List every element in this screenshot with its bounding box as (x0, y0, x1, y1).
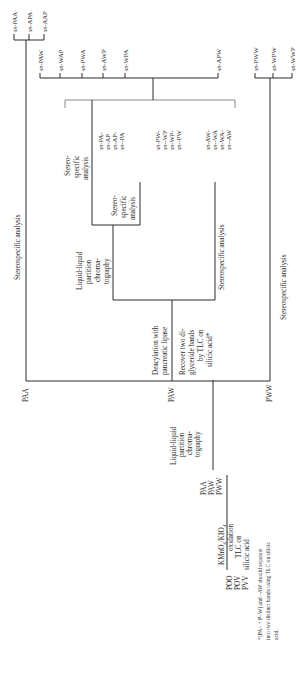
svg-text:silicic acid*: silicic acid* (206, 332, 214, 367)
group-c: sn-AW- sn--WA sn-WA- sn--AW (204, 129, 232, 150)
svg-text:Liquid-liquid: Liquid-liquid (76, 251, 84, 290)
svg-text:PAW: PAW (208, 480, 216, 495)
svg-text:sn-AP-: sn-AP- (111, 132, 118, 150)
svg-text:by TLC on: by TLC on (197, 329, 205, 361)
svg-text:sn-PAA: sn-PAA (11, 12, 18, 32)
svg-text:sn-PWW: sn-PWW (252, 47, 259, 71)
svg-text:sn-PW-: sn-PW- (154, 131, 161, 150)
svg-text:sn-WA-: sn-WA- (218, 130, 225, 150)
svg-text:specific: specific (120, 196, 128, 218)
svg-text:tography: tography (194, 431, 202, 457)
svg-text:sn-APW: sn-APW (215, 48, 222, 71)
svg-text:sn-AP: sn-AP (104, 134, 111, 150)
svg-text:sn--WA: sn--WA (211, 130, 218, 150)
svg-text:sn-APA: sn-APA (26, 12, 33, 32)
svg-text:Stereospecific analysis: Stereospecific analysis (218, 224, 226, 290)
svg-text:sn-WPA: sn-WPA (122, 49, 129, 71)
partition-label-1: Liquid-liquid partition chroma- tography (170, 426, 202, 465)
svg-text:PWW: PWW (216, 477, 224, 495)
svg-text:PAA: PAA (200, 480, 208, 495)
svg-text:sn-AW-: sn-AW- (204, 130, 211, 150)
svg-text:pancreatic lipase: pancreatic lipase (161, 327, 169, 375)
svg-text:PAW: PAW (168, 387, 176, 402)
svg-text:TLC on: TLC on (235, 535, 243, 558)
svg-text:Stereospecific analysis: Stereospecific analysis (280, 254, 288, 320)
stereo-label-a: Stereo- specific analysis (64, 155, 90, 180)
svg-text:tography: tography (103, 258, 111, 284)
group-a: sn-PA- sn-AP sn-AP- sn--PA (97, 132, 125, 150)
svg-text:analysis: analysis (129, 197, 137, 220)
svg-text:PVV: PVV (242, 575, 250, 590)
svg-text:sn--WP: sn--WP (161, 130, 168, 150)
svg-text:chroma-: chroma- (186, 430, 194, 455)
svg-text:into two distinct bands using: into two distinct bands using TLC on sil… (265, 542, 271, 640)
svg-text:*[PA– + P–W] and –AW should se: *[PA– + P–W] and –AW should separate (257, 548, 263, 640)
paw-label: PAW (168, 387, 176, 402)
svg-text:acid.: acid. (273, 629, 279, 640)
svg-text:POV: POV (234, 575, 242, 590)
svg-text:analysis: analysis (82, 157, 90, 180)
svg-text:partition: partition (85, 259, 93, 284)
svg-text:partition: partition (178, 432, 186, 457)
pww-stereo-label: Stereospecific analysis (280, 254, 288, 320)
svg-text:sn-WWP: sn-WWP (289, 47, 296, 71)
footnote: *[PA– + P–W] and –AW should separate int… (257, 542, 279, 640)
svg-text:KMnO4/KIO4: KMnO4/KIO4 (218, 524, 227, 565)
svg-text:Stereo-: Stereo- (111, 195, 119, 216)
group-b: sn-PW- sn--WP sn-WP- sn--PW (154, 130, 182, 150)
svg-text:sn-PAW: sn-PAW (37, 49, 44, 71)
intermediate-compounds: PAA PAW PWW (200, 477, 224, 495)
svg-text:specific: specific (73, 156, 81, 178)
svg-text:Stereospecific analysis: Stereospecific analysis (14, 214, 22, 280)
paa-stereo-label: Stereospecific analysis (14, 214, 22, 280)
svg-text:sn-WAP: sn-WAP (57, 49, 64, 71)
svg-text:POO: POO (226, 576, 234, 590)
paa-label: PAA (22, 387, 30, 402)
svg-text:sn-PWA: sn-PWA (79, 49, 86, 71)
svg-text:sn--PA: sn--PA (118, 132, 125, 150)
svg-text:Stereo-: Stereo- (64, 155, 72, 176)
pww-label: PWW (266, 384, 274, 402)
svg-text:sn--AW: sn--AW (225, 129, 232, 150)
partition-label-2: Liquid-liquid partition chroma- tography (76, 251, 111, 290)
svg-text:PAA: PAA (22, 387, 30, 402)
svg-text:chroma-: chroma- (94, 257, 102, 282)
svg-text:sn-PA-: sn-PA- (97, 132, 104, 150)
stereo-label-b: Stereo- specific analysis (111, 195, 137, 220)
svg-text:Recover two di-: Recover two di- (179, 328, 187, 375)
svg-text:oxidation: oxidation (227, 523, 235, 551)
tlc-label: TLC on silicic acid (235, 535, 251, 570)
svg-text:sn-AWP: sn-AWP (100, 49, 107, 71)
svg-text:sn-WPW: sn-WPW (270, 47, 277, 71)
svg-text:sn-WP-: sn-WP- (168, 130, 175, 150)
svg-text:glyceride bands: glyceride bands (188, 329, 196, 375)
stereo-label-c: Stereospecific analysis (218, 224, 226, 290)
svg-text:sn--PW: sn--PW (175, 130, 182, 150)
svg-text:silicic acid: silicic acid (243, 539, 251, 570)
deacylation-label: Deacylation with pancreatic lipase (152, 325, 169, 375)
recover-label: Recover two di- glyceride bands by TLC o… (179, 328, 214, 375)
svg-text:PWW: PWW (266, 384, 274, 402)
lipid-analysis-flow-diagram: POO POV PVV KMnO4/KIO4 oxidation TLC on … (0, 0, 300, 676)
svg-text:Deacylation with: Deacylation with (152, 325, 160, 375)
start-compounds: POO POV PVV (226, 575, 250, 590)
svg-text:sn-AAP: sn-AAP (41, 11, 48, 32)
svg-text:Liquid-liquid: Liquid-liquid (170, 426, 178, 465)
